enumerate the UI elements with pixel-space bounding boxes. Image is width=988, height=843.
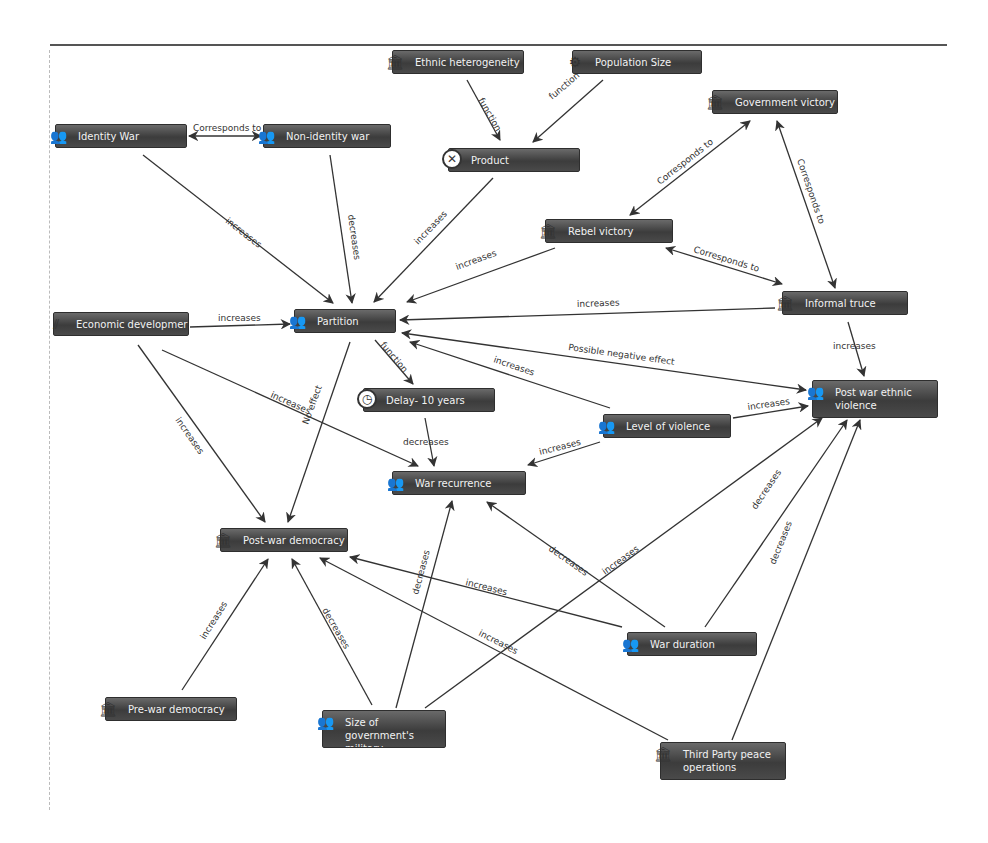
building-icon: 🏛: [776, 292, 794, 314]
edge-label: decreases: [320, 606, 352, 651]
node-label: War recurrence: [415, 478, 492, 489]
edge-product-to-partition[interactable]: [374, 178, 493, 302]
node-label: War duration: [650, 639, 715, 650]
edge-informal_truce-to-partition[interactable]: [400, 308, 775, 320]
edge-label: increases: [218, 313, 261, 323]
people-icon: 👥: [597, 415, 615, 437]
edge-label: increases: [577, 298, 620, 309]
building-icon: 🏛: [539, 220, 557, 242]
node-label: Rebel victory: [568, 226, 633, 237]
edge-label: increases: [465, 577, 509, 597]
edge-label: increases: [600, 543, 641, 576]
edge-size_of_governments_military-to-war_recurrence[interactable]: [396, 501, 452, 708]
multiply-circle-icon: ✕: [442, 149, 462, 169]
edge-label: increases: [198, 599, 229, 641]
edge-government_victory-to-informal_truce[interactable]: [777, 121, 835, 288]
node-non-identity-war[interactable]: Non-identity war: [263, 124, 391, 148]
node-economic-development[interactable]: Economic developmer: [53, 312, 189, 336]
edge-label: increases: [833, 341, 876, 351]
node-level-of-violence[interactable]: Level of violence: [603, 414, 731, 438]
node-label: Non-identity war: [286, 131, 369, 142]
edge-label: increases: [412, 209, 449, 247]
building-icon: 🏛: [654, 743, 672, 765]
edge-label: increases: [538, 437, 582, 457]
node-informal-truce[interactable]: Informal truce: [782, 291, 908, 315]
node-third-party-peace-operations[interactable]: Third Party peace operations: [660, 742, 786, 780]
node-identity-war[interactable]: Identity War: [55, 124, 187, 148]
building-icon: 🏛: [214, 529, 232, 551]
edge-economic_development-to-post_war_democracy[interactable]: [138, 345, 265, 522]
node-label: Delay- 10 years: [386, 395, 465, 406]
node-pre-war-democracy[interactable]: Pre-war democracy: [105, 697, 237, 721]
edge-label: decreases: [403, 437, 449, 447]
node-label: Informal truce: [805, 298, 876, 309]
node-war-duration[interactable]: War duration: [627, 632, 757, 656]
node-label: Identity War: [78, 131, 139, 142]
node-ethnic-heterogeneity[interactable]: Ethnic heterogeneity: [392, 50, 524, 74]
node-post-war-ethnic-violence[interactable]: Post war ethnic violence: [812, 380, 938, 418]
edge-label: Possible negative effect: [568, 342, 676, 367]
edge-partition-to-post_war_democracy[interactable]: [288, 342, 350, 522]
node-label: Government victory: [735, 97, 835, 108]
node-partition[interactable]: Partition: [294, 309, 396, 333]
node-label: Size of government's military: [345, 717, 414, 748]
node-label: Level of violence: [626, 421, 710, 432]
edge-label: function: [378, 340, 409, 375]
node-population-size[interactable]: Population Size: [572, 50, 702, 74]
stairs-icon: ⫽: [47, 313, 65, 335]
node-size-of-governments-military[interactable]: Size of government's military: [322, 710, 446, 748]
edge-label: decreases: [346, 214, 362, 261]
node-rebel-victory[interactable]: Rebel victory: [545, 219, 673, 243]
edge-size_of_governments_military-to-post_war_democracy[interactable]: [292, 559, 372, 705]
node-post-war-democracy[interactable]: Post-war democracy: [220, 528, 348, 552]
edge-third_party_peace_operations-to-post_war_ethnic_violence[interactable]: [732, 420, 860, 740]
edge-label: function: [476, 96, 503, 133]
node-product[interactable]: Product: [448, 148, 580, 172]
people-icon: 👥: [288, 310, 306, 332]
node-label: Economic developmer: [76, 319, 187, 330]
edge-partition-to-post_war_ethnic_violence[interactable]: [402, 333, 806, 390]
edge-label: function: [547, 70, 582, 101]
gear-icon: ⚙: [566, 51, 584, 73]
edge-label: Corresponds to: [193, 123, 262, 133]
node-label: Post-war democracy: [243, 535, 345, 546]
node-delay-10-years[interactable]: Delay- 10 years: [363, 388, 495, 412]
edge-label: increases: [492, 354, 536, 377]
building-icon: 🏛: [706, 91, 724, 113]
node-label: Population Size: [595, 57, 671, 68]
building-icon: 🏛: [99, 698, 117, 720]
node-label: Product: [471, 155, 509, 166]
building-icon: 🏛: [386, 51, 404, 73]
edge-label: decreases: [768, 519, 794, 565]
edge-label: increases: [454, 248, 498, 272]
edge-label: increases: [224, 216, 264, 250]
edge-label: decreases: [749, 467, 783, 511]
people-icon: 👥: [257, 125, 275, 147]
node-label: Third Party peace operations: [683, 749, 771, 773]
edge-population_size-to-product[interactable]: [533, 80, 603, 142]
people-icon: 👥: [316, 711, 334, 733]
clock-icon: ◷: [357, 389, 377, 409]
edge-label: increases: [173, 415, 206, 456]
people-icon: 👥: [806, 381, 824, 403]
edge-economic_development-to-partition[interactable]: [190, 324, 290, 327]
edge-rebel_victory-to-government_victory[interactable]: [630, 121, 750, 215]
node-label: Partition: [317, 316, 359, 327]
people-icon: 👥: [49, 125, 67, 147]
edge-label: Corresponds to: [795, 157, 827, 225]
node-label: Post war ethnic violence: [835, 387, 912, 411]
node-war-recurrence[interactable]: War recurrence: [392, 471, 526, 495]
node-government-victory[interactable]: Government victory: [712, 90, 838, 114]
people-icon: 👥: [386, 472, 404, 494]
people-icon: 👥: [621, 633, 639, 655]
edge-label: Corresponds to: [655, 136, 715, 186]
node-label: Ethnic heterogeneity: [415, 57, 520, 68]
edge-pre_war_democracy-to-post_war_democracy[interactable]: [182, 559, 268, 690]
edge-label: decreases: [547, 543, 590, 578]
node-label: Pre-war democracy: [128, 704, 225, 715]
